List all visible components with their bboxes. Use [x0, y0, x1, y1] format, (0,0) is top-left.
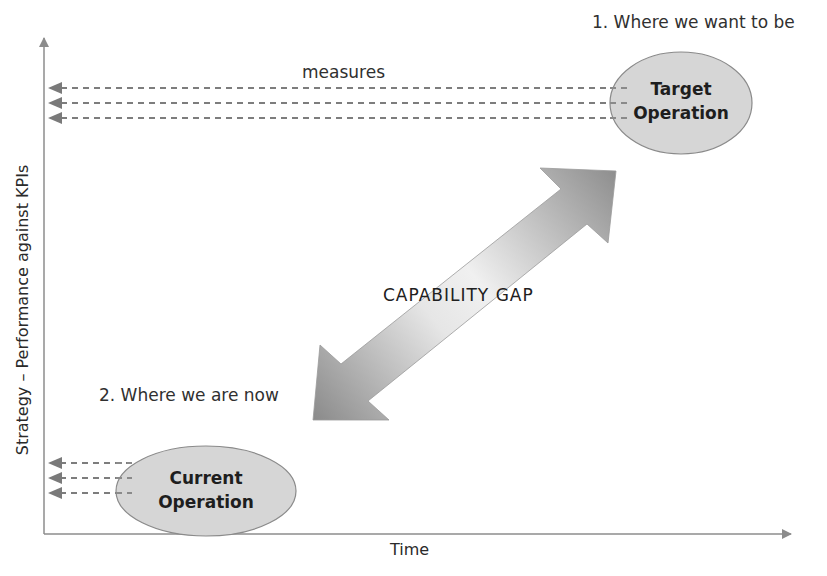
y-axis-label: Strategy – Performance against KPIs — [13, 165, 32, 455]
current-operation-line1: Current — [136, 466, 276, 490]
current-operation-line2: Operation — [136, 490, 276, 514]
capability-gap-label: CAPABILITY GAP — [383, 285, 534, 305]
target-measure-arrows — [62, 88, 628, 118]
measures-label: measures — [302, 62, 385, 82]
target-operation-label: Target Operation — [611, 77, 751, 125]
current-measure-arrowheads — [48, 457, 62, 499]
target-operation-line2: Operation — [611, 101, 751, 125]
capability-gap-diagram: 1. Where we want to be measures Target O… — [0, 0, 827, 576]
current-caption: 2. Where we are now — [99, 385, 279, 405]
x-axis-label: Time — [390, 540, 429, 559]
target-caption: 1. Where we want to be — [592, 12, 795, 32]
target-operation-line1: Target — [611, 77, 751, 101]
current-operation-label: Current Operation — [136, 466, 276, 514]
target-measure-arrowheads — [48, 82, 62, 124]
